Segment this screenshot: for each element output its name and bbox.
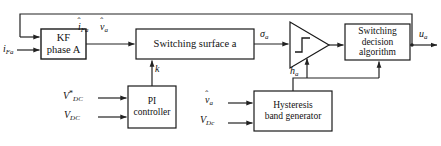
block-hysteresis-band-label: Hysteresis band generator <box>254 91 332 131</box>
block-hysteresis-band-label-line1: Hysteresis <box>273 100 313 111</box>
block-kf-label-line2: phase A <box>47 44 81 56</box>
signal-output-u: ua <box>419 29 428 42</box>
block-diagram: KF phase A Switching surface a Switching… <box>0 0 441 146</box>
signal-sigma: σa <box>260 29 268 42</box>
block-kf-label-line1: KF <box>57 32 70 44</box>
comparator-triangle <box>290 22 329 68</box>
signal-gain-k: k <box>155 64 159 75</box>
block-switching-decision-label-line3: algorithm <box>359 47 396 58</box>
hysteresis-band-bus <box>293 78 379 91</box>
signal-vdc-measured: VDC <box>64 110 80 123</box>
signal-vhat-band-input: vˆa <box>205 95 213 108</box>
signal-estimated-voltage: vˆa <box>100 22 108 35</box>
signal-vdc-reference: V*DC <box>63 90 83 104</box>
signal-input-current: iFa <box>3 44 14 57</box>
block-switching-decision-label: Switching decision algorithm <box>345 24 410 60</box>
signal-hysteresis-band: ha <box>290 66 299 79</box>
signal-vdc-band-input: VDc <box>200 115 214 128</box>
block-switching-decision-label-line2: decision <box>362 37 394 48</box>
signal-estimated-current: iˆFa <box>78 22 89 35</box>
output-tap-junction <box>410 43 413 46</box>
block-pi-controller-label-line2: controller <box>134 107 171 118</box>
diagram-lines-layer <box>0 0 441 146</box>
block-switching-surface-label-text: Switching surface a <box>154 38 237 50</box>
block-switching-decision-label-line1: Switching <box>358 26 397 37</box>
switching-surface-text: Switching surface a <box>154 38 237 49</box>
block-hysteresis-band-label-line2: band generator <box>265 111 322 122</box>
block-pi-controller-label: PI controller <box>128 86 176 128</box>
block-pi-controller-label-line1: PI <box>148 96 156 107</box>
block-switching-surface-label: Switching surface a <box>136 29 254 59</box>
